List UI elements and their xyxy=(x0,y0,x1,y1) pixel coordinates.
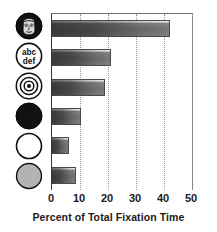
category-icon-cell-target xyxy=(12,72,46,100)
x-tick-label-50: 50 xyxy=(185,192,197,205)
text-abc-def-icon: abc def xyxy=(15,42,43,70)
category-icon-cell-text: abc def xyxy=(12,42,46,70)
x-tick-label-30: 30 xyxy=(129,192,141,205)
bar-row xyxy=(52,161,192,190)
x-tick-label-20: 20 xyxy=(101,192,113,205)
category-icon-cell-gray-circle xyxy=(12,162,46,190)
gridline-50 xyxy=(192,14,193,190)
bar-black-filled-circle-icon xyxy=(52,108,81,125)
bar-row xyxy=(52,131,192,160)
category-icon-cell-face xyxy=(12,12,46,40)
bar-row xyxy=(52,14,192,43)
bar-row xyxy=(52,43,192,72)
bar-face-icon xyxy=(52,20,170,37)
gray-filled-circle-icon xyxy=(15,162,43,190)
x-axis-title: Percent of Total Fixation Time xyxy=(0,211,217,223)
concentric-circles-icon xyxy=(15,72,43,100)
bar-gray-filled-circle-icon xyxy=(52,167,76,184)
x-axis-tick-labels: 01020304050 xyxy=(0,192,217,206)
bar-series xyxy=(52,14,192,190)
bar-row xyxy=(52,102,192,131)
category-icon-column: abc def xyxy=(8,12,50,190)
bar-white-outline-circle-icon xyxy=(52,137,69,154)
plot-area xyxy=(51,13,193,190)
x-tick-label-10: 10 xyxy=(73,192,85,205)
x-tick-label-0: 0 xyxy=(48,192,54,205)
bar-concentric-circles-icon xyxy=(52,79,105,96)
category-icon-cell-black-circle xyxy=(12,102,46,130)
white-outline-circle-icon xyxy=(15,132,43,160)
face-icon xyxy=(15,12,43,40)
icon-text-line2: def xyxy=(23,57,36,66)
bar-text-abc-def-icon xyxy=(52,49,111,66)
x-tick-label-40: 40 xyxy=(157,192,169,205)
bar-row xyxy=(52,73,192,102)
fixation-time-bar-chart: abc def xyxy=(0,0,217,232)
black-filled-circle-icon xyxy=(15,102,43,130)
category-icon-cell-white-circle xyxy=(12,132,46,160)
